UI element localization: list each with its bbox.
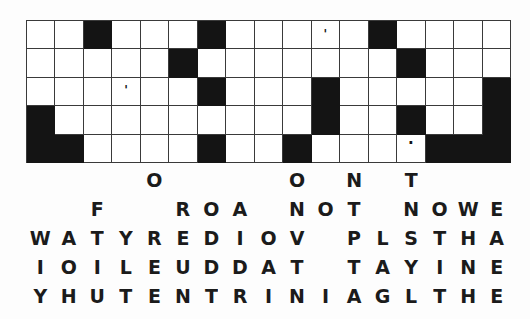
letter-tile[interactable]: I — [254, 287, 283, 306]
grid-cell-open[interactable] — [426, 21, 454, 49]
letter-tile[interactable]: T — [425, 229, 454, 248]
letter-tile[interactable]: H — [55, 287, 84, 306]
letter-tile[interactable]: I — [311, 287, 340, 306]
grid-cell-open[interactable] — [454, 78, 482, 106]
letter-tile[interactable]: A — [254, 258, 283, 277]
grid-cell-open[interactable] — [226, 49, 254, 77]
grid-cell-open[interactable] — [169, 78, 197, 106]
letter-tile[interactable]: I — [425, 258, 454, 277]
grid-cell-open[interactable]: · — [397, 135, 425, 163]
letter-tile[interactable]: E — [169, 229, 198, 248]
letter-tile[interactable]: Y — [397, 258, 426, 277]
grid-cell-open[interactable] — [426, 49, 454, 77]
grid-cell-open[interactable] — [454, 106, 482, 134]
letter-tile[interactable]: A — [55, 229, 84, 248]
letter-tile[interactable]: D — [197, 258, 226, 277]
letter-tile[interactable]: T — [425, 287, 454, 306]
letter-tile[interactable]: V — [283, 229, 312, 248]
letter-tile[interactable]: L — [397, 287, 426, 306]
letter-tile[interactable]: Y — [26, 287, 55, 306]
grid-cell-open[interactable] — [226, 21, 254, 49]
letter-tile[interactable]: T — [340, 200, 369, 219]
grid-cell-open[interactable] — [198, 106, 226, 134]
letter-tile[interactable]: O — [311, 200, 340, 219]
letter-tile[interactable]: A — [482, 229, 511, 248]
letter-tile[interactable]: R — [140, 229, 169, 248]
grid-cell-open[interactable] — [340, 106, 368, 134]
grid-cell-open[interactable] — [369, 106, 397, 134]
grid-cell-open[interactable] — [255, 78, 283, 106]
grid-cell-open[interactable] — [27, 21, 55, 49]
grid-cell-open[interactable] — [283, 49, 311, 77]
grid-cell-open[interactable] — [369, 78, 397, 106]
letter-tile[interactable]: O — [197, 200, 226, 219]
grid-cell-open[interactable] — [255, 135, 283, 163]
grid-cell-open[interactable] — [169, 106, 197, 134]
letter-tile[interactable]: A — [368, 258, 397, 277]
grid-cell-open[interactable] — [255, 106, 283, 134]
letter-tile[interactable]: E — [482, 258, 511, 277]
grid-cell-open[interactable] — [112, 21, 140, 49]
grid-cell-open[interactable] — [112, 135, 140, 163]
grid-cell-open[interactable] — [169, 135, 197, 163]
grid-cell-open[interactable] — [283, 106, 311, 134]
letter-tile[interactable]: T — [340, 258, 369, 277]
grid-cell-open[interactable] — [283, 21, 311, 49]
grid-cell-open[interactable] — [369, 135, 397, 163]
letter-tile[interactable]: P — [340, 229, 369, 248]
letter-tile[interactable]: R — [169, 200, 198, 219]
grid-cell-open[interactable] — [141, 106, 169, 134]
letter-tile[interactable]: N — [340, 171, 369, 190]
letter-tile[interactable]: T — [112, 287, 141, 306]
grid-cell-open[interactable] — [283, 78, 311, 106]
grid-cell-open[interactable] — [426, 106, 454, 134]
letter-tile[interactable]: S — [397, 229, 426, 248]
grid-cell-open[interactable] — [483, 49, 511, 77]
letter-tile[interactable]: T — [283, 258, 312, 277]
grid-cell-open[interactable] — [312, 135, 340, 163]
letter-tile[interactable]: G — [368, 287, 397, 306]
letter-tile[interactable]: O — [254, 229, 283, 248]
letter-tile[interactable]: F — [83, 200, 112, 219]
grid-cell-open[interactable] — [55, 49, 83, 77]
grid-cell-open[interactable] — [55, 106, 83, 134]
grid-cell-open[interactable] — [27, 49, 55, 77]
letter-tile[interactable]: D — [226, 258, 255, 277]
letter-tile[interactable]: T — [197, 287, 226, 306]
letter-tile[interactable]: N — [283, 287, 312, 306]
grid-cell-open[interactable] — [226, 135, 254, 163]
grid-cell-open[interactable] — [483, 21, 511, 49]
grid-cell-open[interactable] — [141, 135, 169, 163]
grid-cell-open[interactable] — [255, 49, 283, 77]
letter-tile[interactable]: U — [169, 258, 198, 277]
letter-tile[interactable]: A — [340, 287, 369, 306]
letter-tile[interactable]: O — [55, 258, 84, 277]
letter-tile[interactable]: N — [454, 258, 483, 277]
grid-cell-open[interactable] — [426, 78, 454, 106]
letter-tile[interactable]: W — [454, 200, 483, 219]
letter-tile[interactable]: E — [482, 200, 511, 219]
grid-cell-open[interactable] — [141, 49, 169, 77]
letter-tile[interactable]: E — [140, 287, 169, 306]
grid-cell-open[interactable] — [84, 78, 112, 106]
grid-cell-open[interactable] — [198, 49, 226, 77]
grid-cell-open[interactable]: ' — [312, 21, 340, 49]
letter-tile[interactable]: N — [397, 200, 426, 219]
letter-tile[interactable]: T — [83, 229, 112, 248]
grid-cell-open[interactable] — [84, 49, 112, 77]
grid-cell-open[interactable] — [255, 21, 283, 49]
letter-tile[interactable]: U — [83, 287, 112, 306]
grid-cell-open[interactable] — [226, 106, 254, 134]
grid-cell-open[interactable] — [340, 78, 368, 106]
letter-tile[interactable]: A — [226, 200, 255, 219]
letter-tile[interactable]: R — [226, 287, 255, 306]
letter-tile[interactable]: T — [397, 171, 426, 190]
puzzle-grid[interactable]: ''· — [26, 20, 511, 163]
grid-cell-open[interactable] — [312, 49, 340, 77]
letter-tile[interactable]: N — [283, 200, 312, 219]
grid-cell-open[interactable] — [369, 49, 397, 77]
grid-cell-open[interactable] — [454, 49, 482, 77]
letter-tile[interactable]: E — [482, 287, 511, 306]
grid-cell-open[interactable] — [340, 135, 368, 163]
letter-tile[interactable]: O — [283, 171, 312, 190]
